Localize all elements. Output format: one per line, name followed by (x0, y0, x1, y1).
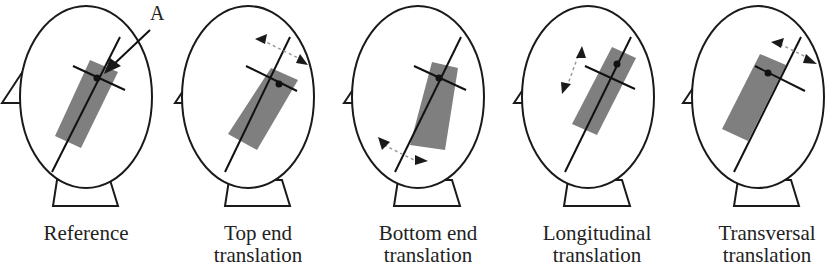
caption-line-1: Top end (173, 222, 343, 244)
panel-longitudinal (514, 6, 654, 206)
caption-bottom-end: Bottom end translation (343, 222, 513, 266)
caption-line-1: Bottom end (343, 222, 513, 244)
caption-line-1: Transversal (682, 222, 837, 244)
panel-top-end (175, 6, 314, 206)
caption-line-1: Reference (1, 222, 171, 244)
caption-line-2: translation (682, 244, 837, 266)
reference-point (765, 70, 772, 77)
caption-longitudinal: Longitudinal translation (512, 222, 682, 266)
caption-reference: Reference (1, 222, 171, 244)
caption-line-2: translation (512, 244, 682, 266)
reference-point (276, 81, 283, 88)
head-ellipse (182, 6, 314, 188)
caption-top-end: Top end translation (173, 222, 343, 266)
caption-line-2: translation (173, 244, 343, 266)
panel-bottom-end (344, 6, 484, 206)
reference-point (436, 75, 443, 82)
caption-line-2: translation (343, 244, 513, 266)
reference-point (614, 61, 621, 68)
panel-transversal (683, 6, 824, 206)
caption-transversal: Transversal translation (682, 222, 837, 266)
caption-line-1: Longitudinal (512, 222, 682, 244)
annotation-label-a: A (150, 2, 164, 25)
panel-reference (2, 6, 152, 206)
reference-point (94, 75, 101, 82)
figure: A Reference Top end translation Bottom e… (0, 0, 837, 269)
